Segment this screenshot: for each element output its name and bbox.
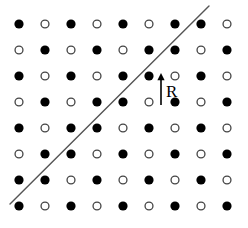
lattice-atom-open [41,202,49,210]
lattice-atom-open [223,20,231,28]
lattice-atom-open [41,72,49,80]
boundary-line-group [10,6,209,204]
lattice-atom-filled [222,149,231,158]
lattice-atom-filled [92,175,101,184]
lattice-atom-open [171,72,179,80]
lattice-atom-open [119,124,127,132]
lattice-atom-open [15,150,23,158]
lattice-atom-filled [118,201,127,210]
lattice-atom-filled [14,123,23,132]
vector-label-r: R [166,83,177,100]
lattice-atom-filled [14,19,23,28]
lattice-atom-open [223,176,231,184]
lattice-atom-open [197,98,205,106]
lattice-atom-open [67,176,75,184]
lattice-atom-open [145,202,153,210]
lattice-atom-open [119,176,127,184]
lattice-atom-filled [144,71,153,80]
lattice-atom-filled [66,71,75,80]
lattice-atom-open [197,46,205,54]
lattice-atom-filled [40,175,49,184]
lattice-atom-filled [196,19,205,28]
arrowhead-icon [157,73,164,80]
lattice-atom-open [119,46,127,54]
lattice-atom-filled [196,123,205,132]
lattice-atom-filled [144,175,153,184]
lattice-atom-open [41,124,49,132]
lattice-atom-filled [222,201,231,210]
lattice-atom-filled [40,45,49,54]
lattice-atom-filled [92,123,101,132]
lattice-atom-open [67,98,75,106]
lattice-atom-filled [118,149,127,158]
antiphase-boundary-line [10,6,209,204]
lattice-atom-filled [170,149,179,158]
lattice-atom-filled [144,123,153,132]
lattice-atom-filled [92,45,101,54]
lattice-atom-filled [170,201,179,210]
lattice-atom-filled [222,97,231,106]
lattice-atom-open [171,176,179,184]
lattice-atom-filled [66,123,75,132]
lattice-atom-open [145,20,153,28]
lattice-diagram: R [0,0,248,228]
lattice-atom-open [171,124,179,132]
lattice-atom-open [93,72,101,80]
lattice-atom-filled [66,201,75,210]
lattice-atom-open [145,98,153,106]
lattice-atom-filled [14,201,23,210]
lattice-circles [14,19,231,210]
lattice-atom-filled [118,71,127,80]
lattice-atom-open [223,72,231,80]
lattice-atom-open [145,150,153,158]
displacement-vector-group [157,73,164,105]
lattice-atom-open [93,150,101,158]
lattice-atom-open [197,202,205,210]
lattice-atom-filled [118,19,127,28]
lattice-atom-open [93,202,101,210]
lattice-atom-filled [66,19,75,28]
lattice-atom-open [93,20,101,28]
lattice-atom-open [15,98,23,106]
lattice-atom-filled [40,97,49,106]
lattice-atom-filled [196,71,205,80]
lattice-atom-filled [170,45,179,54]
lattice-atom-filled [118,97,127,106]
lattice-atom-open [15,46,23,54]
lattice-atom-filled [14,71,23,80]
lattice-atom-filled [196,175,205,184]
lattice-atom-filled [66,149,75,158]
lattice-atom-open [67,46,75,54]
lattice-atom-filled [170,19,179,28]
lattice-atom-open [223,124,231,132]
lattice-atom-filled [222,45,231,54]
lattice-atom-open [41,20,49,28]
lattice-atom-filled [92,97,101,106]
lattice-canvas [0,0,248,228]
lattice-atom-filled [40,149,49,158]
lattice-atom-filled [144,45,153,54]
lattice-atom-filled [14,175,23,184]
lattice-atom-open [197,150,205,158]
